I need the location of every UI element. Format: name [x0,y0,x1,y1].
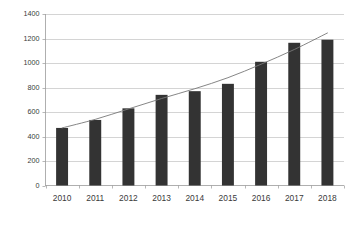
bar [189,91,201,185]
bar [288,43,300,186]
x-tick-label: 2014 [185,193,204,203]
y-tick-label: 1400 [24,9,40,18]
x-tick-label: 2017 [285,193,304,203]
x-tick-label: 2013 [152,193,171,203]
bar [89,120,101,186]
y-tick-label: 800 [28,83,40,92]
bar [321,40,333,186]
chart-canvas: 0200400600800100012001400 20102011201220… [0,0,352,228]
x-tick-label: 2018 [318,193,337,203]
bar [255,62,267,186]
x-tick-label: 2011 [86,193,104,203]
y-tick-label: 1000 [24,58,40,67]
bar [156,95,168,186]
x-tick-label: 2010 [53,193,72,203]
x-tick-label: 2016 [252,193,271,203]
x-tick-label: 2012 [119,193,138,203]
y-tick-label: 600 [28,107,40,116]
y-tick-label: 0 [36,181,40,190]
y-tick-label: 200 [28,156,40,165]
bar [56,128,68,186]
bar [122,108,134,185]
y-tick-label: 400 [28,132,40,141]
bar [222,84,234,186]
bar-chart-figure: 0200400600800100012001400 20102011201220… [0,0,352,228]
x-tick-label: 2015 [219,193,238,203]
y-tick-label: 1200 [24,34,40,43]
x-axis-tick-labels: 201020112012201320142015201620172018 [53,193,337,203]
